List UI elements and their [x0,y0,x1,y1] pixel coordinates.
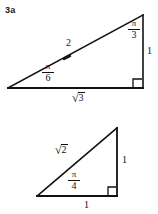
triangle2-hypotenuse-label: √2 [55,144,68,156]
triangle1-hypotenuse-label: 2 [66,38,71,48]
triangle2-right-angle-marker [108,187,116,196]
triangle-30-60-90 [8,15,143,88]
math-figure: 3a 2 π [0,0,158,214]
triangle1-top-angle-denominator: 3 [128,30,140,41]
triangle2-left-angle-label: π 4 [68,170,80,192]
triangle2-base-label: 1 [84,200,89,210]
triangle1-hypotenuse-side [8,15,143,88]
triangle1-left-angle-label: π 6 [42,62,54,84]
triangle2-vertical-side-label: 1 [122,155,127,165]
triangle1-top-angle-label: π 3 [128,19,140,41]
triangle1-left-angle-numerator: π [42,62,54,71]
triangle1-left-angle-denominator: 6 [42,73,54,84]
triangle1-base-label: √3 [72,92,85,104]
triangle2-left-angle-numerator: π [68,170,80,179]
triangle2-hypotenuse-radicand: 2 [61,144,68,155]
triangle2-left-angle-denominator: 4 [68,181,80,192]
triangle1-top-angle-numerator: π [128,19,140,28]
triangle1-right-angle-marker [133,79,142,88]
triangle1-vertical-side-label: 1 [147,46,152,56]
triangle1-base-radicand: 3 [78,92,85,103]
